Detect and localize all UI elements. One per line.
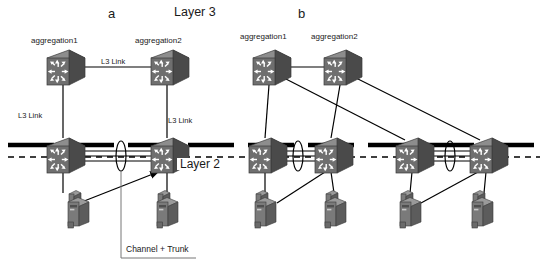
device-aggregation2-b[interactable] [324, 50, 362, 85]
panel-a-devices [47, 50, 189, 228]
link-agg2-access4-b [356, 78, 480, 140]
device-server4-b[interactable] [472, 191, 493, 229]
device-server2-a[interactable] [157, 191, 178, 229]
label-aggregation1-b: aggregation1 [240, 33, 287, 41]
link-access4-server4-b [484, 172, 486, 193]
topology-svg [0, 0, 544, 275]
device-server1-b[interactable] [255, 191, 276, 229]
layer3-title: Layer 3 [174, 6, 216, 19]
panel-a-links [63, 67, 167, 205]
link-agg1-access3-b [284, 78, 405, 140]
link-server1-access2-b [277, 172, 325, 203]
panel-b-devices [249, 50, 508, 228]
link-access2-server2-b [331, 172, 334, 193]
label-channel-trunk: Channel + Trunk [126, 245, 189, 254]
device-server1-a[interactable] [68, 191, 89, 229]
device-server3-b[interactable] [400, 191, 421, 229]
link-agg1-access1-b [265, 85, 269, 138]
link-agg2-access2-b [331, 85, 340, 138]
device-aggregation1-b[interactable] [253, 50, 291, 85]
label-l3-link-left: L3 Link [18, 112, 42, 120]
label-aggregation2-a: aggregation2 [135, 37, 182, 45]
label-l3-link-agg-to-agg: L3 Link [99, 58, 127, 66]
device-aggregation2-a[interactable] [151, 50, 189, 85]
panel-b-label: b [298, 7, 305, 20]
network-diagram-canvas: a b Layer 3 Layer 2 aggregation1 aggrega… [0, 0, 544, 275]
device-aggregation1-a[interactable] [47, 50, 85, 85]
panel-a-label: a [108, 7, 115, 20]
label-l3-link-right: L3 Link [168, 117, 192, 125]
panel-b-links [265, 67, 486, 203]
label-aggregation2-b: aggregation2 [311, 33, 358, 41]
link-server3-access4-b [421, 172, 478, 203]
label-aggregation1-a: aggregation1 [31, 37, 78, 45]
link-server1-access2-a [74, 172, 158, 205]
device-access4-b[interactable] [470, 138, 508, 173]
link-access3-server3-b [410, 172, 412, 193]
device-server2-b[interactable] [325, 191, 346, 229]
layer2-title: Layer 2 [177, 158, 223, 170]
